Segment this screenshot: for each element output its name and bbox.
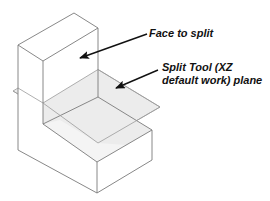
split-tool-label-line1: Split Tool (XZ	[162, 61, 262, 74]
face-to-split-label: Face to split	[149, 27, 213, 40]
split-tool-label-line2: default work) plane	[162, 74, 262, 87]
plane-arrow	[116, 70, 158, 88]
split-diagram	[0, 0, 270, 201]
split-tool-plane-label: Split Tool (XZ default work) plane	[162, 61, 262, 87]
